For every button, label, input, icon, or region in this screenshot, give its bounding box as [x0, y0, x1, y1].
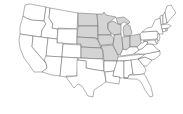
state-ia	[98, 35, 114, 46]
state-mt	[49, 8, 78, 29]
state-me	[165, 5, 176, 23]
us-map	[0, 0, 183, 114]
state-pa	[140, 31, 159, 40]
state-nm	[60, 57, 78, 77]
state-wy	[57, 29, 77, 44]
state-fl	[124, 74, 153, 97]
state-ks	[81, 47, 103, 59]
state-ma	[161, 24, 171, 29]
states-layer	[19, 4, 176, 97]
state-nd	[78, 13, 98, 26]
state-co	[62, 44, 81, 58]
